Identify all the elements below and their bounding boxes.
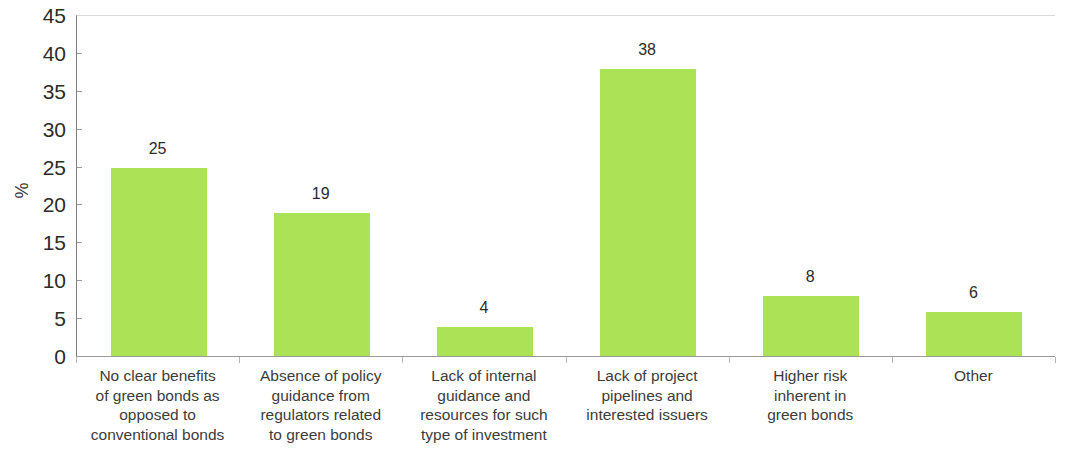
x-axis-category-label: Lack of internal guidance and resources … <box>402 366 565 444</box>
bar <box>274 213 370 357</box>
y-axis-tick-label: 20 <box>0 194 66 215</box>
plot-area <box>76 15 1055 357</box>
x-axis-tick-mark <box>239 357 240 363</box>
bar-value-label: 38 <box>587 42 707 58</box>
x-axis-tick-mark <box>402 357 403 363</box>
x-axis-category-label: Higher risk inherent in green bonds <box>729 366 892 425</box>
bar <box>111 168 207 357</box>
bar-value-label: 19 <box>261 186 381 202</box>
bar-value-label: 25 <box>98 141 218 157</box>
bar <box>763 296 859 357</box>
bar-chart: % 051015202530354045 251943886 No clear … <box>0 0 1071 450</box>
x-axis-tick-mark <box>729 357 730 363</box>
y-axis-tick-label: 25 <box>0 156 66 177</box>
y-axis-tick-label: 10 <box>0 270 66 291</box>
x-axis-tick-mark <box>566 357 567 363</box>
bar <box>437 327 533 357</box>
bar-value-label: 4 <box>424 300 544 316</box>
bar-value-label: 6 <box>913 285 1033 301</box>
y-axis-tick-label: 30 <box>0 118 66 139</box>
x-axis-category-label: Other <box>892 366 1055 386</box>
x-axis-category-label: Lack of project pipelines and interested… <box>566 366 729 425</box>
y-axis-tick-label: 15 <box>0 232 66 253</box>
x-axis-category-label: No clear benefits of green bonds as oppo… <box>76 366 239 444</box>
y-axis-tick-label: 0 <box>0 346 66 367</box>
x-axis-tick-mark <box>76 357 77 363</box>
bar <box>926 312 1022 357</box>
x-axis-category-label: Absence of policy guidance from regulato… <box>239 366 402 444</box>
y-axis-tick-label: 5 <box>0 308 66 329</box>
bar <box>600 69 696 357</box>
y-axis-tick-label: 45 <box>0 5 66 26</box>
bar-value-label: 8 <box>750 269 870 285</box>
y-axis-tick-label: 35 <box>0 80 66 101</box>
x-axis-tick-mark <box>1055 357 1056 363</box>
y-axis-tick-label: 40 <box>0 42 66 63</box>
x-axis-tick-mark <box>892 357 893 363</box>
